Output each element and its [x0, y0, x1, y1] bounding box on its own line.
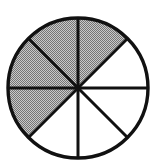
fraction-circle-diagram	[0, 0, 163, 165]
pie-chart-svg	[0, 0, 163, 165]
